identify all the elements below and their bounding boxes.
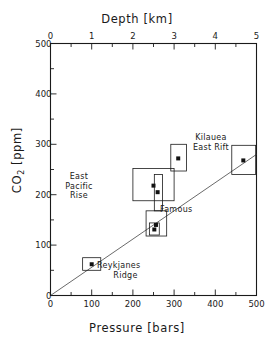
- label-famous: Famous: [160, 205, 202, 215]
- xtick-label-1: 100: [79, 299, 105, 309]
- xtick-label-2: 200: [120, 299, 146, 309]
- epr-label-line1: East: [55, 172, 103, 182]
- xtick-label-5: 500: [244, 299, 270, 309]
- epr-label-line2: Pacific: [55, 182, 103, 192]
- label-kilauea-east-rift: Kilauea East Rift: [180, 133, 242, 152]
- co2-axis-title: CO2 [ppm]: [10, 120, 26, 200]
- co2-axis-title-unit: [ppm]: [10, 127, 24, 169]
- epr-label-line3: Rise: [55, 191, 103, 201]
- ytick-label-3: 300: [26, 139, 52, 149]
- ytick-label-0: 0: [26, 291, 52, 301]
- co2-axis-title-main: CO: [10, 175, 24, 193]
- data-point-0: [133, 168, 174, 200]
- label-east-pacific-rise: East Pacific Rise: [55, 172, 103, 201]
- plot-frame: [51, 44, 257, 296]
- xtick-label-3: 300: [161, 299, 187, 309]
- reykjanes-label-line2: Ridge: [97, 271, 154, 281]
- depth-axis-title: Depth [km]: [0, 12, 274, 26]
- ytick-label-1: 100: [26, 240, 52, 250]
- depth-tick-label-5: 5: [244, 31, 270, 41]
- ytick-label-5: 500: [26, 39, 52, 49]
- pressure-axis-title: Pressure [bars]: [0, 321, 274, 335]
- axis-ticks: [51, 44, 257, 296]
- depth-tick-label-3: 3: [161, 31, 187, 41]
- co2-axis-title-subscript: 2: [17, 169, 26, 175]
- depth-tick-label-4: 4: [202, 31, 228, 41]
- ytick-label-4: 400: [26, 89, 52, 99]
- label-reykjanes-ridge: Reykjanes Ridge: [97, 261, 159, 280]
- ytick-label-2: 200: [26, 190, 52, 200]
- kilauea-label-line2: East Rift: [180, 143, 242, 153]
- reykjanes-label-line1: Reykjanes: [97, 261, 159, 271]
- depth-tick-label-1: 1: [79, 31, 105, 41]
- co2-vs-pressure-figure: Depth [km] CO2 [ppm] Pressure [bars] 010…: [0, 0, 274, 341]
- xtick-label-4: 400: [202, 299, 228, 309]
- kilauea-label-line1: Kilauea: [180, 133, 242, 143]
- depth-tick-label-2: 2: [120, 31, 146, 41]
